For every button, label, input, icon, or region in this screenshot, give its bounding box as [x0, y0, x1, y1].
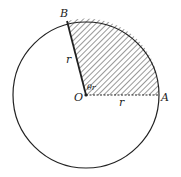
center-point [84, 93, 87, 96]
label-r-OA: r [119, 96, 125, 109]
sector-diagram: B A O r r θr [0, 0, 181, 177]
label-A: A [160, 91, 169, 104]
shaded-sector [67, 18, 159, 95]
label-r-OB: r [66, 53, 72, 66]
label-angle: θr [87, 83, 97, 92]
label-B: B [59, 7, 68, 20]
label-O: O [74, 91, 83, 104]
